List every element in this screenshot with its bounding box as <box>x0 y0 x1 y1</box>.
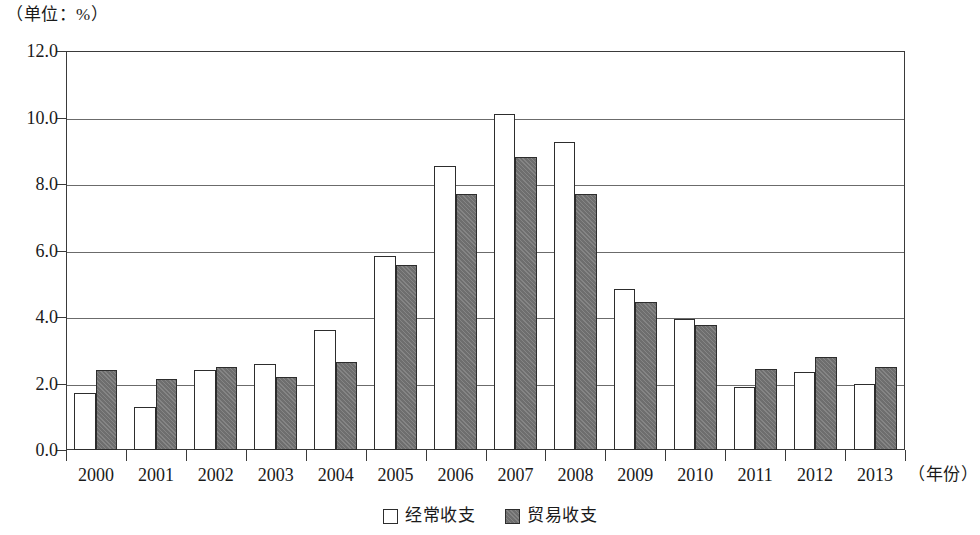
y-tick-label: 10.0 <box>6 109 58 127</box>
x-tick-mark <box>545 450 546 461</box>
y-tick-label: 12.0 <box>6 42 58 60</box>
x-tick-mark <box>605 450 606 461</box>
x-tick-mark <box>785 450 786 461</box>
legend-swatch-icon <box>383 509 398 524</box>
x-tick-mark <box>66 450 67 461</box>
x-tick-mark <box>845 450 846 461</box>
x-axis: 2000200120022003200420052006200720082009… <box>66 450 905 490</box>
x-tick-mark <box>905 450 906 461</box>
x-axis-title: （年份） <box>908 464 978 486</box>
x-tick-mark <box>186 450 187 461</box>
x-tick-mark <box>725 450 726 461</box>
x-tick-mark <box>306 450 307 461</box>
y-tick-label: 4.0 <box>6 308 58 326</box>
x-tick-mark <box>486 450 487 461</box>
y-tick-label: 2.0 <box>6 375 58 393</box>
chart-legend: 经常收支贸易收支 <box>0 506 980 526</box>
legend-item-经常收支: 经常收支 <box>383 506 475 526</box>
bar-chart-figure: （单位：%） 0.02.04.06.08.010.012.0 200020012… <box>0 0 980 535</box>
x-tick-mark <box>126 450 127 461</box>
x-tick-mark <box>426 450 427 461</box>
legend-label: 经常收支 <box>405 506 475 526</box>
legend-item-贸易收支: 贸易收支 <box>505 506 597 526</box>
y-tick-label: 0.0 <box>6 441 58 459</box>
y-tick-label: 8.0 <box>6 175 58 193</box>
x-tick-label-2013: 2013 <box>840 464 910 486</box>
y-axis: 0.02.04.06.08.010.012.0 <box>0 51 58 450</box>
legend-label: 贸易收支 <box>527 506 597 526</box>
y-tick-label: 6.0 <box>6 242 58 260</box>
y-axis-unit-caption: （单位：%） <box>6 4 108 26</box>
gridline <box>67 252 904 253</box>
gridline <box>67 185 904 186</box>
gridline <box>67 385 904 386</box>
x-tick-mark <box>366 450 367 461</box>
legend-swatch-icon <box>505 509 520 524</box>
gridline <box>67 119 904 120</box>
plot-area <box>66 51 905 450</box>
gridline <box>67 318 904 319</box>
x-tick-mark <box>246 450 247 461</box>
x-tick-mark <box>665 450 666 461</box>
